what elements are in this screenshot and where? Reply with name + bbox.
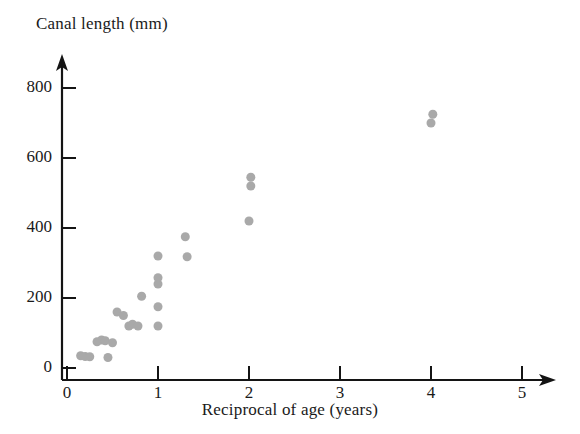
- data-point: [85, 352, 94, 361]
- y-tick-label: 200: [0, 287, 52, 307]
- data-point: [133, 322, 142, 331]
- data-point: [427, 119, 436, 128]
- y-axis-ticks: [62, 88, 76, 368]
- data-point: [154, 322, 163, 331]
- data-point: [183, 252, 192, 261]
- data-point: [246, 173, 255, 182]
- x-tick-label: 4: [419, 383, 443, 403]
- data-point: [154, 252, 163, 261]
- data-point: [181, 232, 190, 241]
- data-point: [154, 302, 163, 311]
- x-tick-label: 2: [237, 383, 261, 403]
- data-point: [246, 182, 255, 191]
- x-axis-ticks: [67, 366, 522, 380]
- x-tick-label: 1: [146, 383, 170, 403]
- y-tick-label: 400: [0, 217, 52, 237]
- data-point: [428, 110, 437, 119]
- x-tick-label: 0: [55, 383, 79, 403]
- y-tick-label: 800: [0, 77, 52, 97]
- data-points-layer: [76, 110, 437, 362]
- data-point: [119, 311, 128, 320]
- x-tick-label: 3: [328, 383, 352, 403]
- data-point: [245, 217, 254, 226]
- scatter-chart-figure: Canal length (mm) Reciprocal of age (yea…: [0, 0, 580, 434]
- plot-area: [0, 0, 580, 434]
- x-tick-label: 5: [510, 383, 534, 403]
- data-point: [103, 353, 112, 362]
- data-point: [108, 338, 117, 347]
- y-tick-label: 600: [0, 147, 52, 167]
- data-point: [154, 273, 163, 282]
- data-point: [137, 292, 146, 301]
- y-tick-label: 0: [0, 357, 52, 377]
